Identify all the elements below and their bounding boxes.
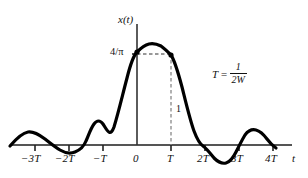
y-axis-label: x(t) [118,14,133,25]
y-value-label: 4/π [110,47,123,58]
x-tick-label-zero: 0 [133,153,139,164]
equation-equals: = [220,68,227,80]
amplitude-label: 1 [176,104,181,114]
x-tick-label-minus-2T: −2T [55,153,75,164]
sinc-pulse-figure: x(t) 4/π 1 −3T −2T −T 0 T 2T 3T 4T t T =… [0,0,308,178]
x-tick-label-minus-T: −T [93,153,107,164]
equation-lhs: T [212,68,218,80]
marker-dot-at-T [168,52,173,57]
equation-denominator: 2W [230,73,247,85]
x-axis-label: t [292,153,295,164]
equation-annotation: T = 1 2W [212,62,247,85]
equation-numerator: 1 [234,62,243,73]
marker-dot-origin-value [134,49,139,54]
plot-canvas [0,0,308,178]
x-tick-label-minus-3T: −3T [21,153,41,164]
x-tick-label-3T: 3T [231,153,243,164]
x-tick-label-4T: 4T [265,153,277,164]
x-tick-label-T: T [167,153,173,164]
x-tick-label-2T: 2T [197,153,209,164]
equation-fraction: 1 2W [230,62,247,85]
